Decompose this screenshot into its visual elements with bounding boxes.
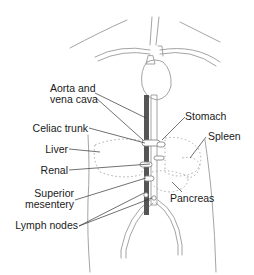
liver-outline xyxy=(94,139,148,177)
label-stomach: Stomach xyxy=(185,111,226,122)
leader-lymph-2 xyxy=(79,198,152,226)
label-celiac-trunk: Celiac trunk xyxy=(22,123,88,134)
lymph-node-2 xyxy=(152,196,156,200)
leader-aorta-2 xyxy=(95,97,143,140)
label-spleen: Spleen xyxy=(208,131,241,142)
leader-liver xyxy=(69,149,100,152)
heart xyxy=(142,60,172,100)
anatomy-diagram: Aorta and vena cava Celiac trunk Liver R… xyxy=(0,0,254,275)
stomach-outline xyxy=(165,137,201,176)
label-aorta-line2: vena cava xyxy=(50,94,98,105)
label-liver: Liver xyxy=(30,144,68,155)
label-lymph-nodes: Lymph nodes xyxy=(10,220,78,231)
label-aorta: Aorta and vena cava xyxy=(50,83,98,105)
body-outline-right xyxy=(205,140,216,272)
body-outline-left xyxy=(88,135,90,272)
leader-renal xyxy=(69,164,150,170)
leader-spleen xyxy=(190,137,206,158)
label-superior-mesentery: Superior mesentery xyxy=(20,188,74,210)
lymph-node-1 xyxy=(144,193,148,197)
vena-cava-vessel xyxy=(151,95,157,205)
leader-lymph-1 xyxy=(79,193,144,226)
leader-stomach xyxy=(162,117,185,140)
renal-branch xyxy=(154,156,164,160)
leader-aorta-1 xyxy=(95,93,146,118)
left-shoulder-line xyxy=(70,20,127,48)
label-renal: Renal xyxy=(30,165,68,176)
label-pancreas: Pancreas xyxy=(170,193,214,204)
right-shoulder-line xyxy=(180,22,220,42)
label-superior-line2: mesentery xyxy=(20,199,74,210)
leader-superior xyxy=(75,178,146,200)
leader-celiac xyxy=(89,128,145,143)
